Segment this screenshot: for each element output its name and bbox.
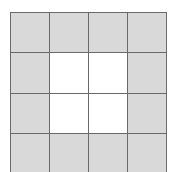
grid-cell-shaded [11, 134, 50, 172]
grid-cell-shaded [50, 134, 89, 172]
grid-cell-shaded [128, 94, 167, 134]
grid-cell-shaded [128, 134, 167, 172]
grid-cell-shaded [128, 53, 167, 93]
grid-cell-shaded [50, 13, 89, 53]
grid-cell-empty [89, 94, 128, 134]
grid-cell-shaded [89, 134, 128, 172]
grid-cell-shaded [11, 53, 50, 93]
grid-cell-shaded [11, 13, 50, 53]
grid-cell-empty [89, 53, 128, 93]
square-grid [10, 12, 167, 172]
grid-cell-empty [50, 94, 89, 134]
grid-cell-shaded [128, 13, 167, 53]
grid-cell-empty [50, 53, 89, 93]
grid-cell-shaded [11, 94, 50, 134]
grid-cell-shaded [89, 13, 128, 53]
